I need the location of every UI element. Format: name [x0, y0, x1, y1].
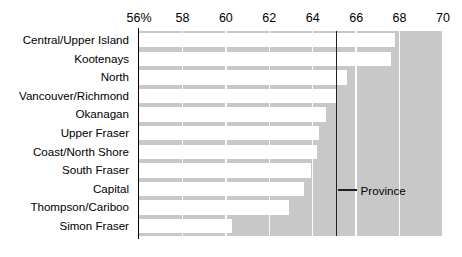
x-axis-tick-label: 68 — [393, 11, 407, 25]
province-reference-line — [336, 31, 338, 236]
y-axis-category-label: Thompson/Cariboo — [0, 198, 134, 217]
bar — [139, 70, 347, 84]
bar-row — [139, 50, 443, 69]
province-annotation-label: Province — [361, 184, 406, 197]
bar — [139, 52, 391, 66]
bar — [139, 219, 232, 233]
bar — [139, 145, 317, 159]
y-axis-category-label: South Fraser — [0, 161, 134, 180]
x-axis-tick-label: 62 — [262, 11, 276, 25]
y-axis-category-label: North — [0, 68, 134, 87]
x-axis-tick-label: 58 — [175, 11, 189, 25]
y-axis-category-label: Kootenays — [0, 50, 134, 69]
bar-row — [139, 87, 443, 106]
y-axis-category-label: Upper Fraser — [0, 124, 134, 143]
y-axis-category-label: Central/Upper Island — [0, 31, 134, 50]
bar-row — [139, 143, 443, 162]
x-axis-tick-label: 60 — [219, 11, 233, 25]
bar — [139, 126, 319, 140]
plot-area: Province — [139, 31, 443, 236]
x-axis-tick-label: 56% — [126, 11, 151, 25]
bar-row — [139, 198, 443, 217]
y-axis-category-label: Vancouver/Richmond — [0, 87, 134, 106]
y-axis-category-label: Capital — [0, 180, 134, 199]
x-axis-tick-label: 66 — [349, 11, 363, 25]
y-axis-category-label: Simon Fraser — [0, 217, 134, 236]
bar-row — [139, 161, 443, 180]
bar — [139, 163, 311, 177]
y-axis-category-label: Okanagan — [0, 105, 134, 124]
bar-row — [139, 105, 443, 124]
bar-row — [139, 31, 443, 50]
bar — [139, 200, 289, 214]
bar — [139, 89, 337, 103]
horizontal-bar-chart: 56%58606264666870 Central/Upper IslandKo… — [0, 0, 462, 257]
bar — [139, 182, 304, 196]
y-axis-category-label: Coast/North Shore — [0, 143, 134, 162]
province-leader-line — [338, 189, 357, 190]
province-annotation: Province — [338, 181, 406, 200]
y-axis-category-labels: Central/Upper IslandKootenaysNorthVancou… — [0, 31, 134, 236]
bar-row — [139, 124, 443, 143]
x-axis-tick-label: 70 — [436, 11, 450, 25]
x-axis-tick-label: 64 — [306, 11, 320, 25]
bar — [139, 107, 326, 121]
bar — [139, 33, 395, 47]
x-axis-tick-labels: 56%58606264666870 — [0, 0, 462, 30]
bar-row — [139, 68, 443, 87]
bar-row — [139, 217, 443, 236]
